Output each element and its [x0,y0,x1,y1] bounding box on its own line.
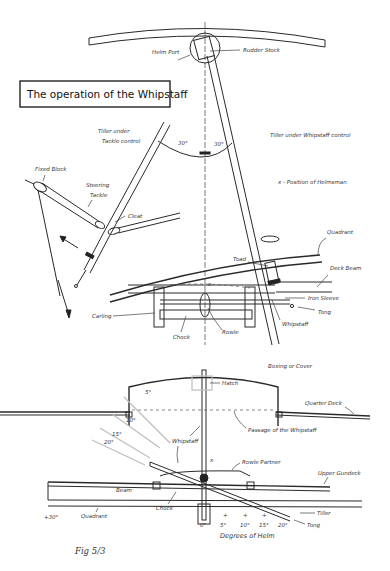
degree-15: 15° [259,522,269,528]
rudder-stock-label: Rudder Stock [243,47,281,53]
chock-lower-label: Chock [156,505,174,511]
degree-20: 20° [278,522,288,528]
fixed-block [32,180,48,194]
degree-5: 5° [220,522,226,528]
tong-label: Tong [318,309,332,316]
angle-10: 10° [126,417,136,423]
iron-sleeve-label: Iron Sleeve [308,295,340,301]
quadrant-lower-label: Quadrant [81,513,108,519]
degree-0: 0° [200,522,206,528]
helmsman-key-label: x - Position of Helmsman [277,179,347,185]
angle-20: 20° [104,439,114,445]
angle-5: 5° [145,389,151,395]
chock-label: Chock [173,334,191,340]
beam [48,500,362,501]
passage-label: Passage of the Whipstaff [248,427,318,434]
tiller-whipstaff-control [207,55,279,345]
whipstaff-vertical [202,370,206,520]
transom-rail-top [89,28,325,40]
lower-diagram: Boxing or Cover Hatch Quarter Deck Passa… [0,363,370,540]
svg-text:+: + [262,512,267,518]
whipstaff-label-upper: Whipstaff [282,321,309,328]
svg-text:+: + [243,512,248,518]
chock [160,310,252,319]
boxing-label: Boxing or Cover [268,363,313,370]
angle-left: 30° [178,140,188,146]
beam-label: Beam [116,487,132,493]
quadrant-lower [48,506,362,507]
tiller-tackle-label-1: Tiller under [98,128,130,134]
upper-diagram: Helm Port Rudder Stock The operation of … [20,22,361,345]
degree-10: 10° [240,522,250,528]
carling-label: Carling [92,313,112,320]
tong-lower-label: Tong [307,522,321,529]
boxing-cover [129,378,278,427]
quadrant [110,255,320,295]
angle-15: 15° [112,431,122,437]
steering-label-1: Steering [86,182,110,189]
rowle-label: Rowle [222,329,239,335]
deck-beam-label: Deck Beam [330,265,361,271]
tiller-whipstaff-label: Tiller under Whipstaff control [270,132,351,139]
far-left-degree: +30° [44,514,59,520]
quadrant-label: Quadrant [327,229,354,235]
quarter-deck-label: Quarter Deck [305,400,343,406]
helm-port-label: Helm Port [152,49,180,55]
degrees-of-helm-label: Degrees of Helm [220,532,275,540]
cleat-label: Cleat [128,213,143,219]
helmsman-mark-lower: x [209,457,214,463]
tiller-tackle-label-2: Tackle control [102,138,141,144]
rowle-lower [200,474,208,482]
rowle-partner-label: Rowle Partner [242,459,281,465]
steering-tackle [42,183,100,222]
upper-gundeck-label: Upper Gundeck [318,470,362,477]
angle-right: 30° [214,141,224,147]
tackle-fall [38,190,60,296]
toad-label: Toad [233,256,246,262]
figure-caption: Fig 5/3 [74,546,105,556]
whipstaff-label-lower: Whipstaff [172,438,199,445]
title: The operation of the Whipstaff [26,88,188,100]
tiller-label: Tiller [317,510,331,516]
fixed-block-label: Fixed Block [35,166,67,172]
hatch-label: Hatch [222,380,239,386]
rudder-stock [194,36,215,59]
steering-label-2: Tackle [90,192,108,198]
whipstaff-diagram: Helm Port Rudder Stock The operation of … [0,0,390,571]
svg-text:+: + [223,512,228,518]
